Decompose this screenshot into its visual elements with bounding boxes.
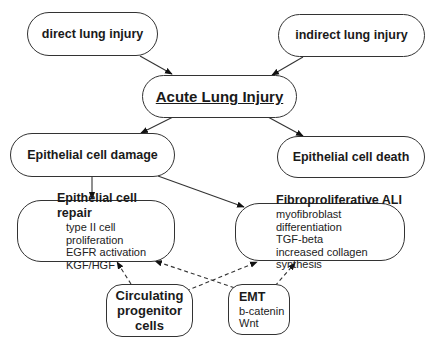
node-epithelial-cell-death: Epithelial cell death — [277, 136, 425, 178]
node-label: EMT — [239, 290, 289, 305]
node-item: TGF-beta — [276, 233, 404, 246]
node-label: Epithelial cell repair — [57, 191, 174, 221]
node-item: b-catenin — [239, 305, 289, 318]
node-item: Wnt — [239, 317, 289, 330]
node-label: Epithelial cell death — [293, 150, 410, 165]
node-label: Acute Lung Injury — [156, 89, 284, 104]
edge-direct-to-ali — [140, 56, 172, 74]
node-label: indirect lung injury — [295, 28, 408, 43]
node-direct-lung-injury: direct lung injury — [27, 12, 158, 56]
edge-ali-to-death — [268, 117, 303, 136]
edge-indirect-to-ali — [272, 57, 303, 75]
edge-ali-to-damage — [141, 117, 173, 133]
node-label: Fibroproliferative ALI — [276, 193, 404, 208]
node-fibroproliferative-ali: Fibroproliferative ALI myofibroblast dif… — [235, 203, 405, 261]
node-item: myofibroblast differentiation — [276, 208, 404, 233]
node-item: EGFR activation — [66, 246, 174, 259]
node-emt: EMT b-catenin Wnt — [228, 284, 290, 335]
node-label: progenitor — [117, 303, 182, 318]
node-item: increased collagen synthesis — [276, 246, 404, 271]
node-indirect-lung-injury: indirect lung injury — [278, 14, 425, 57]
node-circulating-progenitor-cells: Circulating progenitor cells — [106, 284, 193, 337]
node-epithelial-cell-repair: Epithelial cell repair type II cell prol… — [17, 200, 175, 262]
node-acute-lung-injury: Acute Lung Injury — [142, 75, 297, 118]
node-item: KGF/HGF — [66, 259, 174, 272]
node-item: type II cell proliferation — [66, 221, 174, 246]
node-label: direct lung injury — [42, 27, 143, 42]
node-epithelial-cell-damage: Epithelial cell damage — [10, 133, 175, 177]
node-label: Epithelial cell damage — [27, 148, 158, 163]
node-label: cells — [135, 318, 164, 333]
node-label: Circulating — [116, 288, 184, 303]
